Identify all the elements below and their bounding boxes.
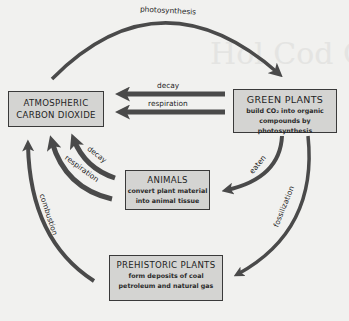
green-plants-box: GREEN PLANTS build CO₂ into organic comp… bbox=[233, 89, 337, 133]
prehistoric-line1: form deposits of coal bbox=[110, 271, 222, 281]
photosynthesis-arrow bbox=[52, 23, 278, 79]
atmospheric-title-line2: CARBON DIOXIDE bbox=[9, 109, 103, 121]
carbon-cycle-diagram: Hol Cod Chestand ATMOSPHERIC CARBON DIOX… bbox=[0, 0, 349, 321]
animals-line2: into animal tissue bbox=[126, 196, 209, 206]
animals-line1: convert plant material bbox=[126, 186, 209, 196]
green-plants-line2: compounds by photosynthesis bbox=[234, 116, 336, 136]
decay-label-top: decay bbox=[157, 81, 179, 90]
prehistoric-line2: petroleum and natural gas bbox=[110, 281, 222, 291]
atmospheric-carbon-dioxide-box: ATMOSPHERIC CARBON DIOXIDE bbox=[8, 91, 104, 127]
atmospheric-title-line1: ATMOSPHERIC bbox=[9, 97, 103, 109]
animals-box: ANIMALS convert plant material into anim… bbox=[125, 170, 210, 210]
prehistoric-plants-box: PREHISTORIC PLANTS form deposits of coal… bbox=[109, 255, 223, 301]
fossilization-arrow bbox=[238, 136, 309, 274]
green-plants-line1: build CO₂ into organic bbox=[234, 106, 336, 116]
green-plants-title: GREEN PLANTS bbox=[234, 94, 336, 106]
prehistoric-title: PREHISTORIC PLANTS bbox=[110, 259, 222, 271]
respiration-label-top: respiration bbox=[148, 99, 188, 108]
animals-title: ANIMALS bbox=[126, 174, 209, 186]
